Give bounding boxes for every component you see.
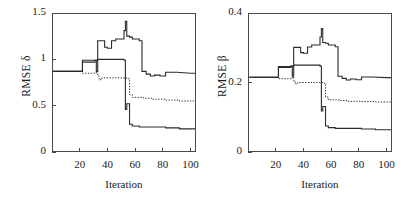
y-tick-mark <box>248 82 252 83</box>
x-tick-label: 100 <box>370 158 402 170</box>
series-upper-solid <box>249 29 392 80</box>
x-tick-mark <box>162 148 163 152</box>
y-tick-mark <box>248 152 252 153</box>
y-tick-mark <box>52 152 56 153</box>
x-tick-mark <box>190 148 191 152</box>
y-tick-mark <box>52 59 56 60</box>
x-axis-label-right: Iteration <box>238 178 402 190</box>
chart-panel-left: RMSE δ Iteration 00.511.520406080100 <box>0 0 204 202</box>
x-tick-mark <box>135 148 136 152</box>
y-tick-label: 0.2 <box>204 75 242 87</box>
y-tick-mark <box>52 13 56 14</box>
x-tick-label: 100 <box>174 158 206 170</box>
series-dotted <box>249 77 392 102</box>
x-tick-mark <box>79 148 80 152</box>
series-dotted <box>53 71 196 101</box>
y-tick-label: 0 <box>8 144 46 156</box>
figure: RMSE δ Iteration 00.511.520406080100 RMS… <box>0 0 409 202</box>
y-tick-label: 0 <box>204 144 242 156</box>
x-tick-mark <box>331 148 332 152</box>
x-tick-mark <box>358 148 359 152</box>
x-tick-mark <box>386 148 387 152</box>
series-upper-solid <box>53 21 196 76</box>
y-tick-mark <box>52 105 56 106</box>
x-axis-label-left: Iteration <box>42 178 206 190</box>
y-tick-label: 1.5 <box>8 5 46 17</box>
x-tick-mark <box>275 148 276 152</box>
y-tick-label: 1 <box>8 51 46 63</box>
chart-panel-right: RMSE β Iteration 00.20.420406080100 <box>204 0 408 202</box>
series-lower-solid <box>53 59 196 129</box>
series-lower-solid <box>249 65 392 130</box>
plot-lines-right <box>204 0 409 202</box>
x-tick-mark <box>107 148 108 152</box>
y-tick-label: 0.5 <box>8 98 46 110</box>
y-tick-label: 0.4 <box>204 5 242 17</box>
x-tick-mark <box>303 148 304 152</box>
y-tick-mark <box>248 13 252 14</box>
